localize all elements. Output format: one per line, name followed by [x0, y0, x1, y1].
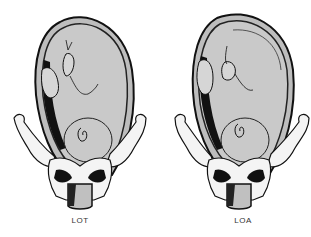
figure-label-loa: LOA [223, 216, 263, 225]
figure-label-lot: LOT [60, 216, 100, 225]
fetal-leg [197, 60, 213, 95]
figure-loa: LOA [155, 0, 311, 237]
fetal-position-loa-illustration [155, 0, 311, 237]
fetal-hand [222, 62, 236, 80]
fetal-head [64, 118, 112, 162]
fetal-position-lot-illustration [0, 0, 160, 237]
figure-lot: LOT [0, 0, 160, 237]
fetal-head [221, 118, 269, 162]
